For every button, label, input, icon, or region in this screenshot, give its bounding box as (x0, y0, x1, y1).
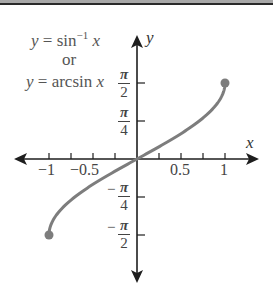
frac-den: 4 (118, 198, 130, 213)
frac-den: 4 (118, 123, 130, 138)
x-tick-label-neg05: −0.5 (70, 161, 99, 179)
eq3-x: x (96, 72, 104, 91)
eq1-x: x (88, 31, 100, 50)
eq3-y: y (26, 72, 34, 91)
y-tick-label-neg-pi-over-4: π4 (118, 180, 130, 213)
frac-num: π (118, 67, 130, 82)
frac-num: π (118, 105, 130, 120)
eq1-sup: −1 (76, 29, 88, 41)
eq3-mid: = arcsin (34, 72, 97, 91)
x-tick-label-05: 0.5 (170, 161, 190, 179)
eq1-mid: = sin (39, 31, 77, 50)
y-tick-minus-pi-over-2: − (107, 219, 115, 236)
y-axis-label: y (146, 28, 154, 48)
eq1-y: y (31, 31, 39, 50)
y-tick-label-pi-over-4: π4 (118, 105, 130, 138)
y-tick-minus-pi-over-4: − (107, 181, 115, 198)
endpoint-dot-left (45, 231, 54, 240)
frac-den: 2 (118, 236, 130, 251)
y-tick-label-pi-over-2: π2 (118, 67, 130, 100)
x-tick-label-1: 1 (220, 161, 228, 179)
equation-or: or (62, 50, 76, 70)
equation-line-1: y = sin−1 x (31, 29, 100, 51)
equation-line-3: y = arcsin x (26, 72, 104, 92)
frac-num: π (118, 180, 130, 195)
x-axis-label: x (246, 133, 254, 153)
frac-num: π (118, 218, 130, 233)
frac-den: 2 (118, 85, 130, 100)
endpoint-dot-right (221, 78, 230, 87)
y-tick-label-neg-pi-over-2: π2 (118, 218, 130, 251)
x-tick-label-neg1: −1 (38, 161, 55, 179)
